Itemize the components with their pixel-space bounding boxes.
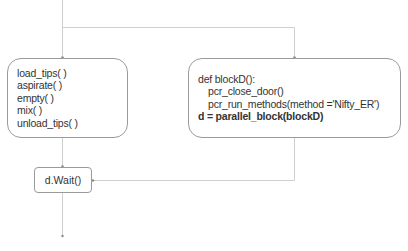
code-line: aspirate( ) (17, 79, 127, 91)
code-line: mix( ) (17, 104, 127, 116)
arrow-head-icon (92, 179, 94, 181)
right-code-block[interactable]: def blockD(): pcr_close_door() pcr_run_m… (188, 58, 401, 138)
arrow-head-icon (61, 235, 63, 237)
code-line: load_tips( ) (17, 67, 127, 79)
connector-right-to-wait (92, 138, 295, 181)
code-line: def blockD(): (198, 73, 400, 85)
code-line: empty( ) (17, 92, 127, 104)
left-code-block[interactable]: load_tips( ) aspirate( ) empty( ) mix( )… (7, 58, 128, 138)
wait-label: d.Wait() (45, 174, 81, 186)
code-line: d = parallel_block(blockD) (198, 110, 400, 122)
code-line: pcr_run_methods(method ='Nifty_ER') (198, 98, 400, 110)
wait-block[interactable]: d.Wait() (34, 167, 92, 193)
code-line: unload_tips( ) (17, 117, 127, 129)
code-line: pcr_close_door() (198, 85, 400, 97)
